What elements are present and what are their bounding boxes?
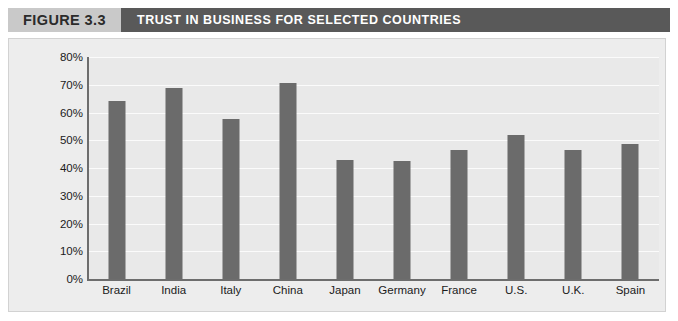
bar-slot bbox=[431, 57, 488, 279]
y-axis-tick-label: 50% bbox=[60, 134, 83, 146]
y-axis-line bbox=[87, 57, 89, 279]
x-axis-tick-label: China bbox=[259, 282, 316, 302]
bar-slot bbox=[545, 57, 602, 279]
bar bbox=[108, 101, 125, 279]
bar-slot bbox=[88, 57, 145, 279]
y-axis-tick-label: 10% bbox=[60, 245, 83, 257]
x-axis-tick-label: U.S. bbox=[488, 282, 545, 302]
bar bbox=[565, 150, 582, 279]
bar-slot bbox=[488, 57, 545, 279]
figure-header: FIGURE 3.3 TRUST IN BUSINESS FOR SELECTE… bbox=[8, 8, 670, 32]
x-axis-tick-label: U.K. bbox=[545, 282, 602, 302]
plot-area bbox=[88, 57, 659, 279]
bar-slot bbox=[316, 57, 373, 279]
plot-wrapper bbox=[88, 57, 659, 279]
y-axis-tick-labels: 80%70%60%50%40%30%20%10%0% bbox=[37, 57, 83, 279]
bar-slot bbox=[373, 57, 430, 279]
bar bbox=[622, 144, 639, 279]
bar bbox=[451, 150, 468, 279]
y-axis-tick-label: 30% bbox=[60, 190, 83, 202]
figure-number-tag: FIGURE 3.3 bbox=[8, 8, 121, 32]
y-axis-tick-label: 40% bbox=[60, 162, 83, 174]
y-axis-tick-label: 70% bbox=[60, 79, 83, 91]
bar bbox=[508, 135, 525, 279]
bar bbox=[394, 161, 411, 279]
x-axis-tick-labels: BrazilIndiaItalyChinaJapanGermanyFranceU… bbox=[88, 282, 659, 302]
bar-slot bbox=[602, 57, 659, 279]
bar-slot bbox=[202, 57, 259, 279]
x-axis-tick-label: Germany bbox=[373, 282, 430, 302]
bar bbox=[279, 83, 296, 279]
x-axis-line bbox=[87, 279, 659, 281]
y-axis-tick-label: 80% bbox=[60, 51, 83, 63]
bars-group bbox=[88, 57, 659, 279]
bar-slot bbox=[259, 57, 316, 279]
y-axis-tick-label: 20% bbox=[60, 218, 83, 230]
figure-title: TRUST IN BUSINESS FOR SELECTED COUNTRIES bbox=[121, 8, 670, 32]
y-axis-tick-label: 0% bbox=[66, 273, 83, 285]
x-axis-tick-label: Brazil bbox=[88, 282, 145, 302]
y-axis-tick-label: 60% bbox=[60, 107, 83, 119]
bar-slot bbox=[145, 57, 202, 279]
bar bbox=[222, 119, 239, 279]
bar bbox=[336, 160, 353, 279]
x-axis-tick-label: France bbox=[431, 282, 488, 302]
chart-panel: 80%70%60%50%40%30%20%10%0% BrazilIndiaIt… bbox=[8, 38, 666, 312]
bar bbox=[165, 88, 182, 279]
figure-container: FIGURE 3.3 TRUST IN BUSINESS FOR SELECTE… bbox=[0, 0, 678, 321]
x-axis-tick-label: Italy bbox=[202, 282, 259, 302]
x-axis-tick-label: India bbox=[145, 282, 202, 302]
x-axis-tick-label: Japan bbox=[316, 282, 373, 302]
x-axis-tick-label: Spain bbox=[602, 282, 659, 302]
